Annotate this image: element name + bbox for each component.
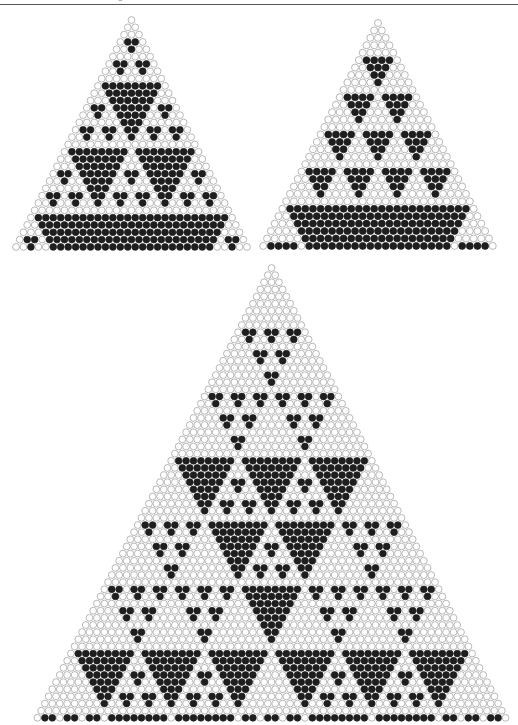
cell-nondivisible (253, 450, 260, 457)
cell-nondivisible (376, 529, 383, 536)
cell-nondivisible (368, 643, 375, 650)
cell-divisible (372, 522, 379, 529)
cell-nondivisible (276, 422, 283, 429)
cell-nondivisible (417, 564, 424, 571)
cell-divisible (313, 536, 320, 543)
cell-nondivisible (56, 686, 63, 693)
cell-divisible (242, 329, 249, 336)
cell-nondivisible (186, 564, 193, 571)
cell-divisible (198, 472, 205, 479)
cell-divisible (238, 650, 245, 657)
cell-nondivisible (328, 550, 335, 557)
cell-divisible (443, 714, 450, 721)
cell-nondivisible (480, 672, 487, 679)
cell-nondivisible (335, 622, 342, 629)
cell-divisible (283, 564, 290, 571)
cell-divisible (272, 629, 279, 636)
cell-divisible (316, 543, 323, 550)
cell-nondivisible (108, 629, 115, 636)
cell-nondivisible (350, 679, 357, 686)
cell-divisible (406, 672, 413, 679)
cell-nondivisible (209, 379, 216, 386)
cell-nondivisible (94, 614, 101, 621)
cell-divisible (183, 586, 190, 593)
cell-nondivisible (38, 707, 45, 714)
cell-divisible (179, 465, 186, 472)
cell-divisible (116, 672, 123, 679)
cell-nondivisible (298, 622, 305, 629)
cell-nondivisible (116, 600, 123, 607)
cell-divisible (309, 714, 316, 721)
cell-nondivisible (261, 279, 268, 286)
cell-nondivisible (227, 629, 234, 636)
cell-divisible (168, 686, 175, 693)
cell-nondivisible (231, 465, 238, 472)
cell-divisible (409, 607, 416, 614)
cell-divisible (231, 693, 238, 700)
cell-divisible (272, 614, 279, 621)
cell-nondivisible (361, 500, 368, 507)
cell-nondivisible (335, 650, 342, 657)
cell-divisible (97, 679, 104, 686)
cell-nondivisible (383, 629, 390, 636)
cell-nondivisible (354, 515, 361, 522)
cell-divisible (97, 664, 104, 671)
cell-nondivisible (413, 572, 420, 579)
cell-nondivisible (279, 343, 286, 350)
cell-divisible (283, 664, 290, 671)
cell-divisible (461, 650, 468, 657)
cell-nondivisible (398, 614, 405, 621)
cell-nondivisible (328, 564, 335, 571)
cell-divisible (212, 529, 219, 536)
cell-nondivisible (339, 686, 346, 693)
cell-nondivisible (365, 579, 372, 586)
cell-divisible (309, 529, 316, 536)
cell-nondivisible (164, 622, 171, 629)
cell-nondivisible (198, 700, 205, 707)
cell-divisible (131, 629, 138, 636)
cell-divisible (212, 472, 219, 479)
cell-divisible (294, 672, 301, 679)
cell-nondivisible (168, 515, 175, 522)
cell-divisible (272, 714, 279, 721)
cell-nondivisible (417, 550, 424, 557)
cell-nondivisible (480, 714, 487, 721)
cell-divisible (220, 672, 227, 679)
cell-divisible (372, 564, 379, 571)
cell-nondivisible (272, 386, 279, 393)
cell-divisible (417, 664, 424, 671)
cell-nondivisible (361, 557, 368, 564)
cell-nondivisible (331, 572, 338, 579)
cell-nondivisible (294, 372, 301, 379)
cell-divisible (335, 679, 342, 686)
cell-nondivisible (205, 700, 212, 707)
cell-nondivisible (160, 600, 167, 607)
cell-nondivisible (354, 643, 361, 650)
cell-nondivisible (290, 693, 297, 700)
cell-nondivisible (138, 515, 145, 522)
cell-nondivisible (272, 343, 279, 350)
cell-nondivisible (276, 379, 283, 386)
cell-nondivisible (253, 693, 260, 700)
cell-nondivisible (227, 600, 234, 607)
cell-nondivisible (283, 493, 290, 500)
cell-nondivisible (368, 515, 375, 522)
cell-nondivisible (443, 600, 450, 607)
cell-divisible (172, 522, 179, 529)
cell-divisible (190, 472, 197, 479)
cell-nondivisible (458, 686, 465, 693)
cell-nondivisible (186, 636, 193, 643)
cell-divisible (94, 714, 101, 721)
cell-nondivisible (339, 415, 346, 422)
cell-divisible (298, 550, 305, 557)
cell-nondivisible (272, 315, 279, 322)
cell-nondivisible (183, 700, 190, 707)
cell-divisible (227, 543, 234, 550)
cell-nondivisible (194, 407, 201, 414)
cell-nondivisible (190, 515, 197, 522)
cell-divisible (472, 714, 479, 721)
cell-nondivisible (257, 315, 264, 322)
cell-nondivisible (283, 579, 290, 586)
cell-nondivisible (432, 607, 439, 614)
cell-nondivisible (127, 593, 134, 600)
